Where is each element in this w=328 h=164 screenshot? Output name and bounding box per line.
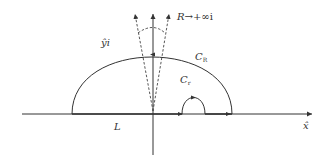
dashed-rays [135, 14, 169, 111]
real-axis-label: x̂ [303, 121, 309, 131]
contour-diagram [0, 0, 328, 164]
segment-L-label: L [114, 122, 121, 132]
limit-label: R→+∞i [177, 12, 213, 22]
imag-axis-label: ŷi [101, 38, 110, 48]
small-arc-Cr [182, 96, 205, 115]
contour-path-L [72, 112, 232, 116]
big-arc-label: CR [195, 52, 207, 63]
small-arc-label: Cr [180, 75, 191, 86]
